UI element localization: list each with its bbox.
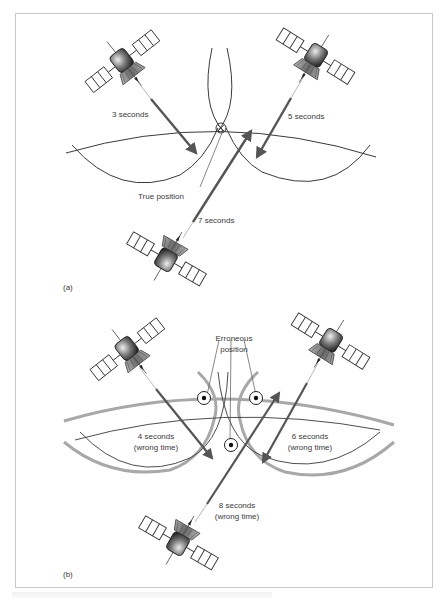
label-true-position: True position [138,192,184,201]
label-sat1-time-b2: (wrong time) [134,443,179,452]
dot-circle-icon [198,392,211,405]
label-erroneous-1: Erroneous [216,334,253,343]
signal-arrow-sat3-b [207,393,279,504]
signal-arrow-sat1 [151,99,196,153]
label-sat3-time-b2: (wrong time) [215,512,260,521]
thin-range-arcs-b [75,372,380,467]
signal-arrow-sat3 [193,131,251,222]
satellite-icon [278,298,379,390]
label-sat2-time: 5 seconds [288,112,324,121]
label-erroneous-2: position [220,345,248,354]
panel-b: Erroneous position 4 seconds (wrong time… [63,298,394,586]
satellite-icon [130,495,231,585]
satellite-icon [79,304,180,400]
satellite-icon [263,13,364,105]
caption-cutoff [12,592,272,598]
dot-circle-icon [250,392,263,405]
label-sat1-time-b1: 4 seconds [138,432,174,441]
figure-svg: 3 seconds 5 seconds True position 7 seco… [0,0,446,601]
dot-circle-icon [225,439,238,452]
signal-arrow-sat2 [257,98,291,157]
label-sat3-time: 7 seconds [198,216,234,225]
satellite-icon [74,16,175,112]
label-sat3-time-b1: 8 seconds [219,501,255,510]
true-position-leader [200,133,222,187]
panel-a-label: (a) [63,283,73,292]
panel-b-label: (b) [63,570,73,579]
panel-a: 3 seconds 5 seconds True position 7 seco… [63,13,376,302]
label-sat1-time: 3 seconds [112,110,148,119]
label-sat2-time-b2: (wrong time) [288,443,333,452]
figure: 3 seconds 5 seconds True position 7 seco… [0,0,446,601]
thick-range-arcs-b [64,372,394,475]
label-sat2-time-b1: 6 seconds [292,432,328,441]
